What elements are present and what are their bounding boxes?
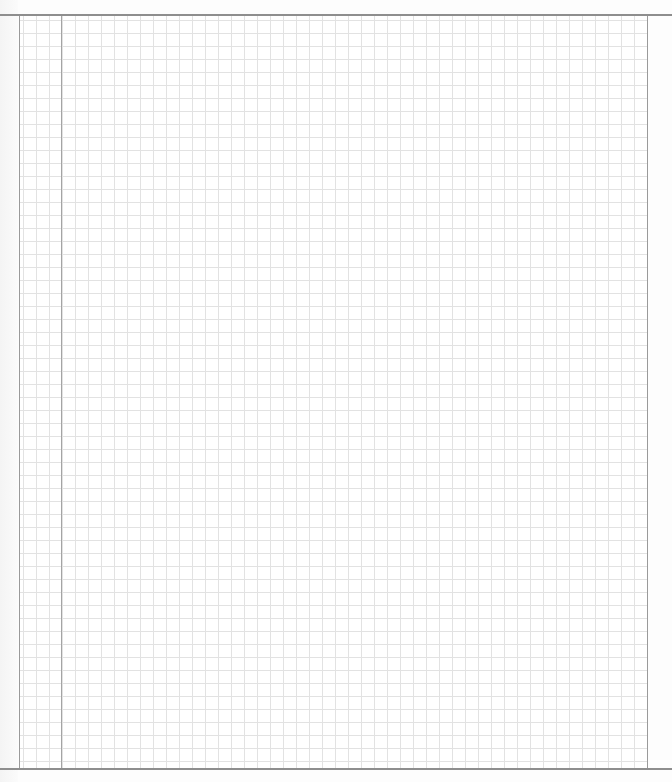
bottom-border-rule xyxy=(0,768,672,770)
graph-paper-sheet xyxy=(19,15,648,769)
margin-line xyxy=(61,15,62,769)
top-border-rule xyxy=(0,14,672,16)
scan-edge-shadow xyxy=(0,0,18,782)
